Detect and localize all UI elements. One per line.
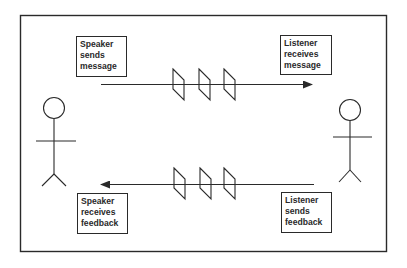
box-line: feedback bbox=[81, 218, 118, 228]
speaker-stick-figure-icon bbox=[36, 98, 76, 187]
svg-text:Speaker: Speaker bbox=[81, 196, 115, 206]
svg-text:sends: sends bbox=[80, 50, 105, 60]
box-line: sends bbox=[80, 50, 105, 60]
barrier-icon bbox=[174, 168, 185, 199]
listener-stick-figure-icon bbox=[333, 100, 372, 183]
box-line: Speaker bbox=[81, 196, 115, 206]
svg-text:feedback: feedback bbox=[285, 217, 322, 227]
svg-text:message: message bbox=[80, 61, 117, 71]
box-line: message bbox=[284, 60, 321, 70]
box-line: message bbox=[80, 61, 117, 71]
box-line: feedback bbox=[285, 217, 322, 227]
svg-text:sends: sends bbox=[285, 206, 310, 216]
svg-text:Listener: Listener bbox=[285, 195, 319, 205]
svg-text:Listener: Listener bbox=[284, 38, 318, 48]
feedback-barriers bbox=[174, 168, 235, 199]
svg-text:receives: receives bbox=[284, 49, 319, 59]
communication-diagram: Speaker sends message Listener receives … bbox=[0, 0, 407, 268]
box-listener-sends-feedback: Listener sends feedback bbox=[282, 193, 332, 233]
box-line: Speaker bbox=[80, 39, 114, 49]
svg-text:Speaker: Speaker bbox=[80, 39, 114, 49]
box-speaker-receives-feedback: Speaker receives feedback bbox=[78, 194, 128, 234]
box-line: receives bbox=[284, 49, 319, 59]
box-line: receives bbox=[81, 207, 116, 217]
box-line: sends bbox=[285, 206, 310, 216]
svg-text:receives: receives bbox=[81, 207, 116, 217]
box-speaker-sends-message: Speaker sends message bbox=[77, 37, 127, 77]
svg-text:message: message bbox=[284, 60, 321, 70]
barrier-icon bbox=[200, 168, 211, 199]
box-listener-receives-message: Listener receives message bbox=[281, 36, 332, 75]
box-line: Listener bbox=[284, 38, 318, 48]
barrier-icon bbox=[224, 168, 235, 199]
box-line: Listener bbox=[285, 195, 319, 205]
svg-text:feedback: feedback bbox=[81, 218, 118, 228]
